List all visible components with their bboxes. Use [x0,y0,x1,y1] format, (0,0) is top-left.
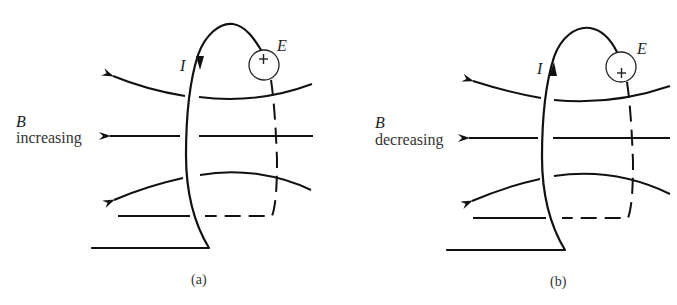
field-line-bottom [114,178,183,200]
current-arrow-down-icon [196,56,204,70]
field-line-top [473,81,541,98]
field-symbol-a: B [16,113,26,130]
field-line-top-right [554,86,670,101]
field-line-top-right [199,84,312,99]
field-state-a: increasing [16,129,82,147]
emf-source-a [249,50,279,80]
current-label-a: I [179,57,186,74]
caption-b: (b) [550,274,567,290]
field-lines-a [110,76,313,200]
field-symbol-b: B [375,114,385,131]
circuit-wire-back-b [562,82,633,218]
current-label-b: I [536,60,543,77]
field-line-bottom-right [554,174,670,194]
caption-a: (a) [191,272,207,288]
emf-source-b [606,52,636,82]
panel-a: E I B increasing (a) [16,24,313,288]
field-line-top [113,76,185,96]
field-state-b: decreasing [375,131,443,149]
field-line-bottom-right [200,172,311,190]
emf-label-b: E [636,40,647,57]
induction-diagram: E I B increasing (a) E I B [0,0,677,305]
circuit-wire-back-a [205,80,277,216]
panel-b: E I B decreasing (b) [375,28,670,290]
field-line-bottom [472,179,540,201]
field-lines-b [469,81,670,201]
emf-label-a: E [276,37,287,54]
